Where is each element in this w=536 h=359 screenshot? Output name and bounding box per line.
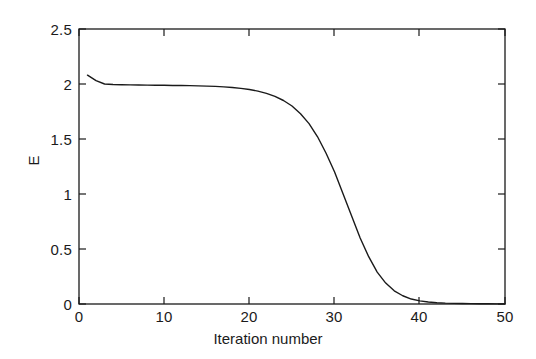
axes-frame: [79, 29, 505, 304]
ytick-label-2.5: 2.5: [30, 21, 72, 38]
line-chart-plot: [0, 0, 536, 359]
xtick-label-50: 50: [485, 308, 525, 325]
xtick-label-30: 30: [314, 308, 354, 325]
xtick-label-40: 40: [399, 308, 439, 325]
x-axis-title: Iteration number: [0, 330, 536, 347]
xtick-label-20: 20: [229, 308, 269, 325]
ytick-label-0.5: 0.5: [30, 241, 72, 258]
ytick-label-1: 1: [30, 186, 72, 203]
xtick-label-0: 0: [59, 308, 99, 325]
xtick-label-10: 10: [144, 308, 184, 325]
ytick-label-2: 2: [30, 76, 72, 93]
chart-figure: 2.5 2 1.5 1 0.5 0 0 10 20 30 40 50 Itera…: [0, 0, 536, 359]
y-axis-title: E: [25, 144, 42, 178]
